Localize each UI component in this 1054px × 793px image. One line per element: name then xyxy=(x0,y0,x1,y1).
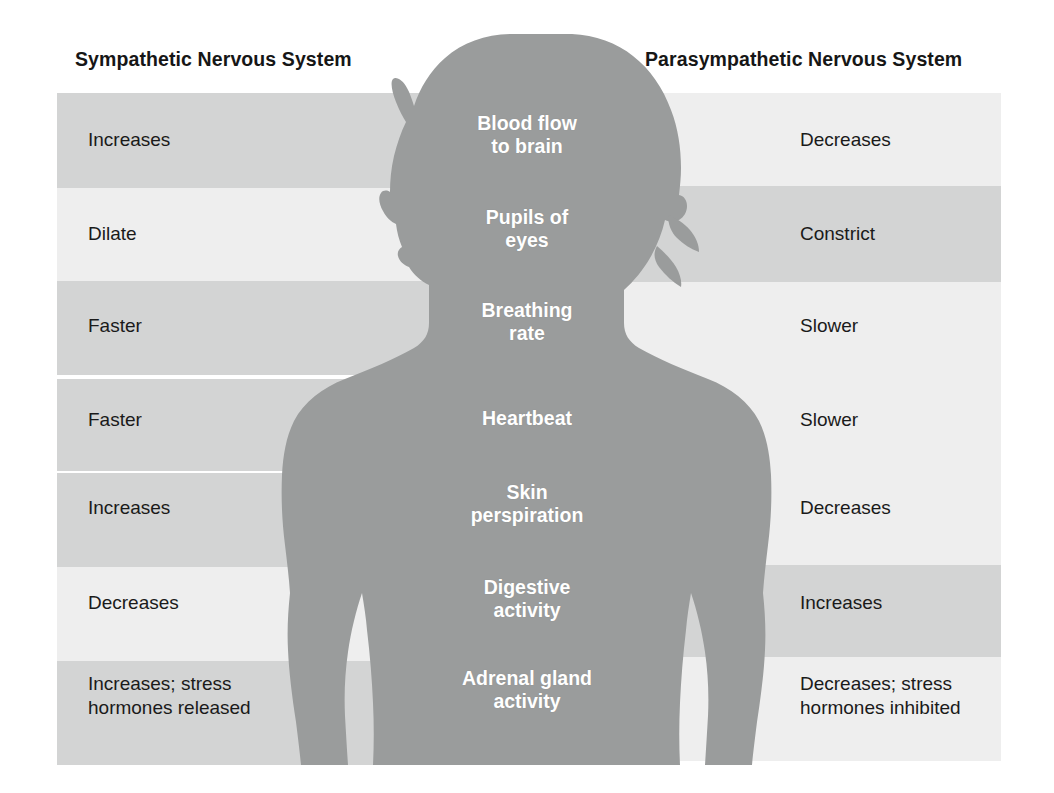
body-function-label-5: Digestive activity xyxy=(377,576,677,623)
parasympathetic-value-1: Constrict xyxy=(800,222,875,246)
sympathetic-value-5: Decreases xyxy=(88,591,179,615)
parasympathetic-value-5: Increases xyxy=(800,591,882,615)
sympathetic-value-2: Faster xyxy=(88,314,142,338)
body-function-label-3: Heartbeat xyxy=(377,407,677,430)
parasympathetic-value-2: Slower xyxy=(800,314,858,338)
body-function-label-2: Breathing rate xyxy=(377,299,677,346)
parasympathetic-value-4: Decreases xyxy=(800,496,891,520)
parasympathetic-value-3: Slower xyxy=(800,408,858,432)
sympathetic-value-0: Increases xyxy=(88,128,170,152)
parasympathetic-value-6: Decreases; stress hormones inhibited xyxy=(800,672,961,721)
parasympathetic-value-0: Decreases xyxy=(800,128,891,152)
sympathetic-value-4: Increases xyxy=(88,496,170,520)
body-function-label-0: Blood flow to brain xyxy=(377,112,677,159)
body-function-label-1: Pupils of eyes xyxy=(377,206,677,253)
sympathetic-value-3: Faster xyxy=(88,408,142,432)
sympathetic-value-6: Increases; stress hormones released xyxy=(88,672,251,721)
sympathetic-value-1: Dilate xyxy=(88,222,137,246)
autonomic-nervous-system-figure: IncreasesDecreasesDilateConstrictFasterS… xyxy=(0,0,1054,793)
column-heading-parasympathetic: Parasympathetic Nervous System xyxy=(645,48,962,71)
body-function-label-4: Skin perspiration xyxy=(377,481,677,528)
body-function-label-6: Adrenal gland activity xyxy=(377,667,677,714)
column-heading-sympathetic: Sympathetic Nervous System xyxy=(75,48,352,71)
